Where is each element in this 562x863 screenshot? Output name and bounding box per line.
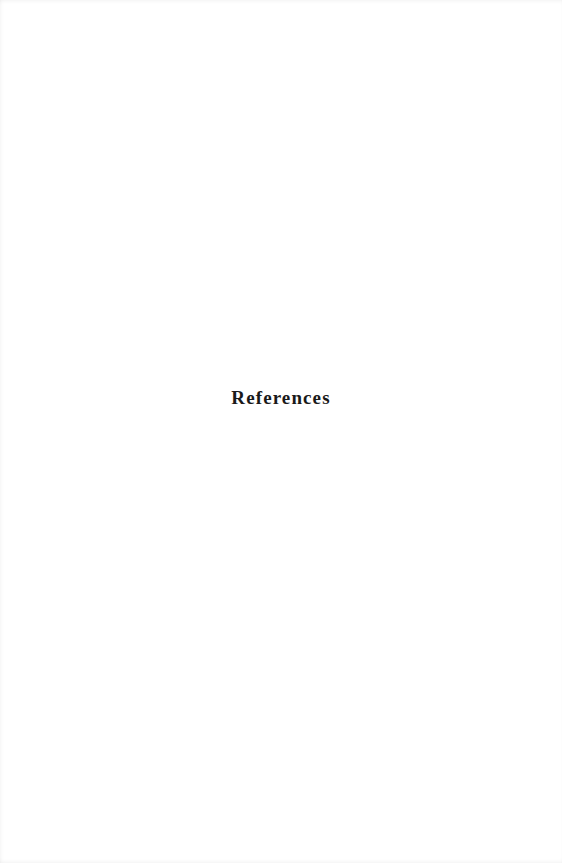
document-page: References: [0, 0, 562, 863]
section-heading: References: [0, 386, 562, 410]
